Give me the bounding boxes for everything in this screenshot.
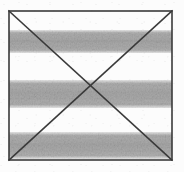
stripe-band-3 (9, 132, 172, 159)
striped-rectangle-figure (0, 0, 184, 172)
stripe-band-group (9, 30, 172, 159)
figure-root (0, 0, 184, 172)
